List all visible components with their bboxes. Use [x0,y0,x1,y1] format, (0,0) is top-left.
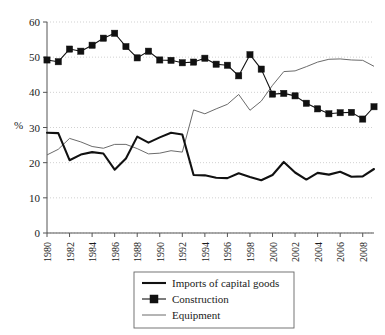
y-tick-label: 30 [29,122,41,134]
y-tick-label: 10 [29,192,41,204]
construction-data-point [213,61,219,67]
construction-data-point [281,90,287,96]
x-tick-label: 2004 [313,242,324,262]
construction-data-point [371,104,377,110]
x-tick-label: 1986 [110,242,121,262]
y-axis-title: % [14,119,23,131]
construction-data-point [236,73,242,79]
construction-data-point [134,55,140,61]
construction-data-point [190,59,196,65]
construction-data-point [100,35,106,41]
construction-data-point [78,48,84,54]
construction-data-point [258,66,264,72]
construction-data-point [315,106,321,112]
construction-data-point [112,30,118,36]
construction-data-point [303,100,309,106]
construction-data-point [44,57,50,63]
y-tick-label: 50 [29,51,41,63]
gridlines [47,22,374,233]
x-tick-label: 1980 [42,242,53,262]
legend-label-construction: Construction [172,293,229,305]
equipment-line [47,59,374,155]
construction-data-point [292,93,298,99]
construction-data-point [168,57,174,63]
x-axis: 1980198219841986198819901992199419961998… [42,233,374,262]
legend-square-marker-icon [150,295,158,303]
y-tick-label: 60 [29,16,41,28]
construction-markers [44,30,377,122]
construction-data-point [348,109,354,115]
y-axis-ticks [43,22,47,233]
x-tick-label: 2008 [358,242,369,262]
x-tick-label: 2006 [335,242,346,262]
construction-data-point [157,57,163,63]
y-tick-label: 0 [35,227,41,239]
y-tick-label: 40 [29,86,41,98]
x-tick-label: 1988 [132,242,143,262]
series-imports-of-capital-goods [47,133,374,180]
construction-data-point [269,91,275,97]
y-axis: 0102030405060 % [14,16,47,239]
x-axis-ticks [47,233,363,237]
construction-data-point [123,44,129,50]
construction-data-point [337,110,343,116]
x-tick-label: 1998 [245,242,256,262]
x-axis-tick-labels: 1980198219841986198819901992199419961998… [42,242,369,262]
construction-data-point [55,59,61,65]
x-tick-label: 1996 [222,242,233,262]
construction-data-point [66,46,72,52]
legend-label-equipment: Equipment [172,309,220,321]
series-equipment [47,59,374,155]
construction-data-point [247,52,253,58]
x-tick-label: 1992 [177,242,188,262]
legend: Imports of capital goods Construction Eq… [134,272,294,328]
construction-data-point [224,62,230,68]
y-axis-tick-labels: 0102030405060 [29,16,41,239]
legend-label-imports: Imports of capital goods [172,277,279,289]
construction-data-point [89,42,95,48]
legend-item-construction: Construction [142,293,229,305]
construction-data-point [202,55,208,61]
imports-of-capital-goods-line [47,133,374,180]
line-chart: 0102030405060 % 198019821984198619881990… [0,0,385,335]
x-tick-label: 1982 [65,242,76,262]
chart-figure: 0102030405060 % 198019821984198619881990… [0,0,385,335]
x-tick-label: 1984 [87,242,98,262]
construction-data-point [326,111,332,117]
series-construction [44,30,377,122]
construction-data-point [360,116,366,122]
x-tick-label: 2002 [290,242,301,262]
construction-data-point [179,60,185,66]
x-tick-label: 1994 [200,242,211,262]
y-tick-label: 20 [29,157,41,169]
x-tick-label: 2000 [268,242,279,262]
construction-data-point [145,48,151,54]
x-tick-label: 1990 [155,242,166,262]
construction-line [47,33,374,119]
